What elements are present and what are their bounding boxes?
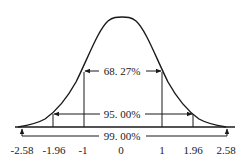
tick-label: -2.58 — [11, 144, 34, 156]
tick-label: 0 — [118, 144, 124, 156]
tick-label: 2.58 — [216, 144, 236, 156]
tick-label: -1.96 — [43, 144, 66, 156]
label-99-00: 99. 00% — [104, 130, 141, 142]
normal-distribution-diagram: 68. 27% 95. 00% 99. 00% -2.58 -1.96 -1 0… — [0, 0, 245, 168]
tick-label: 1 — [159, 144, 165, 156]
tick-label: -1 — [78, 144, 87, 156]
label-95-00: 95. 00% — [104, 108, 141, 120]
tick-label: 1.96 — [183, 144, 203, 156]
label-68-27: 68. 27% — [104, 65, 141, 77]
